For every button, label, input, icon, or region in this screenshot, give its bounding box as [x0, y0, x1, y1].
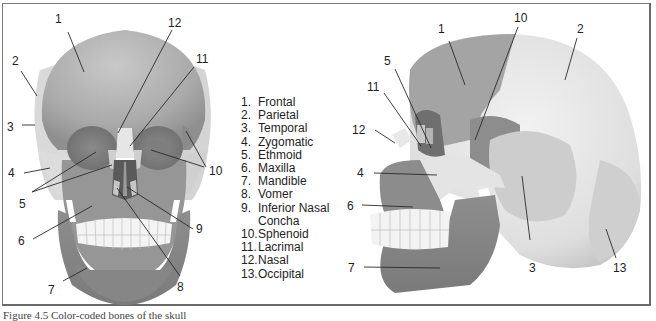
label-sphenoid: 10	[209, 165, 222, 177]
label-nasal: 12	[352, 124, 365, 136]
label-inferior-nasal-concha: 9	[196, 223, 203, 235]
label-ethmoid: 5	[19, 198, 26, 210]
label-temporal: 3	[7, 121, 14, 133]
label-zygomatic: 4	[8, 167, 15, 179]
label-ethmoid: 5	[384, 55, 391, 67]
legend-item: 12.Nasal	[241, 254, 329, 267]
label-nasal: 12	[168, 17, 181, 29]
label-parietal: 2	[577, 23, 584, 35]
label-sphenoid: 10	[514, 12, 527, 24]
lateral-skull	[370, 34, 641, 293]
legend-item: 9.Inferior Nasal	[241, 202, 329, 215]
anterior-skull	[34, 30, 210, 305]
label-maxilla: 6	[18, 235, 25, 247]
label-frontal: 1	[55, 13, 62, 25]
label-mandible: 7	[348, 262, 355, 274]
legend-item: 13.Occipital	[241, 268, 329, 281]
label-occipital: 13	[613, 262, 626, 274]
legend-item: 4.Zygomatic	[241, 136, 329, 149]
label-temporal: 3	[529, 262, 536, 274]
label-maxilla: 6	[347, 200, 354, 212]
label-lacrimal: 11	[367, 81, 379, 93]
label-mandible: 7	[48, 284, 55, 296]
label-vomer: 8	[177, 281, 184, 293]
figure-caption: Figure 4.5 Color-coded bones of the skul…	[3, 309, 186, 321]
label-zygomatic: 4	[357, 167, 364, 179]
label-lacrimal: 11	[196, 53, 208, 65]
bone-legend: 1.Frontal 2.Parietal 3.Temporal 4.Zygoma…	[241, 96, 329, 281]
label-parietal: 2	[12, 55, 19, 67]
legend-item: 8.Vomer	[241, 188, 329, 201]
label-frontal: 1	[438, 23, 445, 35]
legend-item: 3.Temporal	[241, 122, 329, 135]
